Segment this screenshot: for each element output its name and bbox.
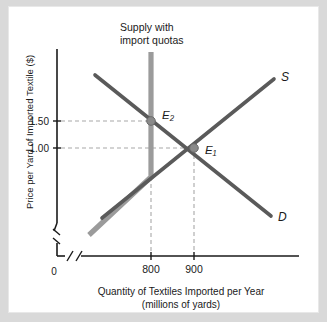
supply-demand-quota-chart: Price per Yard of Imported Textile ($) xyxy=(9,7,318,312)
y-axis-title: Price per Yard of Imported Textile ($) xyxy=(24,55,35,209)
y-tick-label-150: 1.50 xyxy=(30,116,50,127)
y-tick-label-100: 1.00 xyxy=(30,143,50,154)
demand-curve xyxy=(95,75,271,216)
equilibrium-point-e2 xyxy=(147,117,156,126)
figure-root: Price per Yard of Imported Textile ($) xyxy=(0,0,327,322)
quota-annotation-line1: Supply with xyxy=(120,21,174,33)
x-tick-label-800: 800 xyxy=(142,263,160,275)
figure-frame: Price per Yard of Imported Textile ($) xyxy=(9,7,318,312)
supply-curve-label: S xyxy=(281,70,289,84)
equilibrium-label-e2: E₂ xyxy=(162,109,175,121)
equilibrium-label-e1: E₁ xyxy=(205,144,217,156)
x-axis-title: Quantity of Textiles Imported per Year xyxy=(98,286,265,297)
y-axis-break-icon xyxy=(53,229,60,244)
quota-annotation-line2: import quotas xyxy=(120,34,184,46)
origin-label: 0 xyxy=(51,266,57,277)
x-tick-label-900: 900 xyxy=(185,263,203,275)
x-axis-break-icon xyxy=(67,251,82,261)
x-axis-subtitle: (millions of yards) xyxy=(142,299,220,310)
demand-curve-label: D xyxy=(278,210,287,224)
equilibrium-point-e1 xyxy=(190,144,199,153)
